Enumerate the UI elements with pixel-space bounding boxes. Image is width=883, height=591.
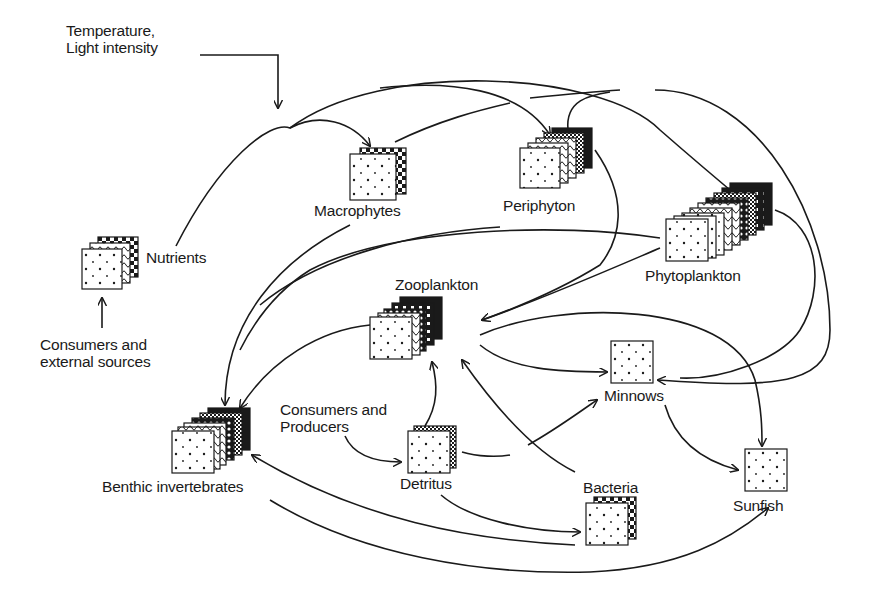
phytoplankton-node[interactable] <box>666 183 772 261</box>
benthic-invertebrates-label: Benthic invertebrates <box>102 478 243 495</box>
zooplankton-label: Zooplankton <box>395 276 478 293</box>
benthic-invertebrates-node[interactable] <box>172 408 250 473</box>
zooplankton-to-minnows-arrow <box>480 345 607 372</box>
periphyton-to-benthic-line <box>260 227 500 305</box>
zooplankton-node[interactable] <box>370 297 442 359</box>
consumers-producers-to-detritus-arrow <box>345 436 401 462</box>
nutrients-to-periphyton-arrow <box>380 85 550 135</box>
detritus-to-minnows-line <box>462 452 510 456</box>
bacteria-node[interactable] <box>586 497 636 545</box>
periphyton-loop <box>568 92 610 130</box>
periphyton-node[interactable] <box>520 128 592 188</box>
detritus-label: Detritus <box>400 475 452 492</box>
macrophytes-to-periphyton-line <box>395 103 510 142</box>
minnows-node[interactable] <box>611 341 653 383</box>
macrophytes-label: Macrophytes <box>314 202 401 219</box>
sunfish-node[interactable] <box>745 449 787 491</box>
periphyton-label: Periphyton <box>503 197 575 214</box>
consumers-producers-label: Consumers and Producers <box>280 401 387 435</box>
detritus-to-minnows-arrow <box>528 400 597 445</box>
detritus-to-zooplankton-arrow <box>425 362 436 426</box>
bacteria-label: Bacteria <box>583 479 638 496</box>
temperature-light-label: Temperature, Light intensity <box>66 22 158 56</box>
macrophytes-to-benthic-arrow <box>225 225 350 405</box>
benthic-to-sunfish-arrow <box>270 500 768 572</box>
detritus-to-bacteria-arrow <box>441 495 580 532</box>
detritus-node[interactable] <box>408 426 456 473</box>
temperature-arrow <box>200 55 278 108</box>
minnows-label: Minnows <box>604 387 664 404</box>
sunfish-label: Sunfish <box>733 497 783 514</box>
nutrients-to-macrophytes-arrow <box>176 120 370 246</box>
consumers-external-label: Consumers and external sources <box>40 336 151 370</box>
macrophytes-node[interactable] <box>350 148 406 200</box>
minnows-to-sunfish-arrow <box>665 405 738 470</box>
nutrients-label: Nutrients <box>146 249 206 266</box>
zooplankton-to-benthic-arrow <box>240 325 370 408</box>
nutrients-node[interactable] <box>82 237 138 289</box>
phytoplankton-label: Phytoplankton <box>645 267 741 284</box>
